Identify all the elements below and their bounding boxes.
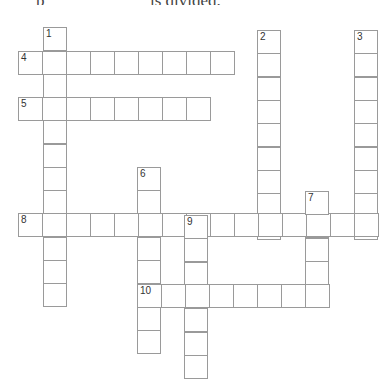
- crossword-cell-8-across-3[interactable]: [66, 213, 91, 237]
- crossword-cell-1-down-7[interactable]: [43, 167, 67, 191]
- crossword-cell-4-across-3[interactable]: [66, 51, 91, 75]
- crossword-cell-5-across-1[interactable]: 5: [18, 97, 43, 121]
- crossword-cell-5-across-7[interactable]: [162, 97, 187, 121]
- crossword-cell-5-across-5[interactable]: [114, 97, 139, 121]
- crossword-cell-10-across-7[interactable]: [281, 284, 306, 308]
- crossword-cell-9-down-7[interactable]: [184, 355, 208, 379]
- crossword-cell-6-down-2[interactable]: [137, 190, 161, 214]
- crossword-cell-1-down-1[interactable]: 1: [43, 27, 67, 51]
- crossword-cell-8-across-1[interactable]: 8: [18, 213, 43, 237]
- crossword-cell-3-down-4[interactable]: [354, 100, 378, 124]
- crossword-cell-5-across-2[interactable]: [42, 97, 67, 121]
- crossword-cell-3-down-5[interactable]: [354, 123, 378, 147]
- crossword-cell-7-down-4[interactable]: [305, 261, 329, 285]
- crossword-cell-6-down-5[interactable]: [137, 260, 161, 284]
- clue-number-7: 7: [308, 193, 314, 203]
- heading-fragment-left: p: [36, 0, 45, 5]
- crossword-cell-2-down-1[interactable]: 2: [257, 30, 281, 54]
- crossword-cell-1-down-3[interactable]: [43, 74, 67, 98]
- crossword-cell-1-down-11[interactable]: [43, 260, 67, 284]
- crossword-cell-10-across-3[interactable]: [185, 284, 210, 308]
- crossword-cell-8-across-12[interactable]: [282, 213, 307, 237]
- crossword-cell-7-down-1[interactable]: 7: [305, 191, 329, 215]
- clue-number-1: 1: [46, 29, 52, 39]
- crossword-cell-4-across-8[interactable]: [186, 51, 211, 75]
- crossword-cell-2-down-2[interactable]: [257, 53, 281, 77]
- crossword-cell-10-across-8[interactable]: [305, 284, 330, 308]
- crossword-cell-9-down-3[interactable]: [184, 262, 208, 286]
- crossword-cell-9-down-2[interactable]: [184, 238, 208, 262]
- crossword-cell-8-across-10[interactable]: [234, 213, 259, 237]
- crossword-cell-8-across-11[interactable]: [258, 213, 283, 237]
- crossword-cell-4-across-7[interactable]: [162, 51, 187, 75]
- crossword-cell-2-down-7[interactable]: [257, 170, 281, 194]
- crossword-cell-1-down-10[interactable]: [43, 237, 67, 261]
- crossword-cell-6-down-1[interactable]: 6: [137, 167, 161, 191]
- crossword-cell-8-across-5[interactable]: [114, 213, 139, 237]
- crossword-cell-4-across-6[interactable]: [138, 51, 163, 75]
- crossword-cell-8-across-9[interactable]: [210, 213, 235, 237]
- clue-number-5: 5: [21, 99, 27, 109]
- crossword-cell-1-down-6[interactable]: [43, 144, 67, 168]
- heading-fragment-right: is divided.: [150, 0, 221, 5]
- crossword-cell-10-across-2[interactable]: [161, 284, 186, 308]
- crossword-cell-1-down-12[interactable]: [43, 283, 67, 307]
- crossword-cell-1-down-8[interactable]: [43, 190, 67, 214]
- crossword-cell-5-across-4[interactable]: [90, 97, 115, 121]
- crossword-cell-8-across-15[interactable]: [354, 213, 379, 237]
- crossword-cell-9-down-5[interactable]: [184, 308, 208, 332]
- crossword-cell-6-down-4[interactable]: [137, 237, 161, 261]
- crossword-cell-3-down-6[interactable]: [354, 147, 378, 171]
- crossword-cell-5-across-6[interactable]: [138, 97, 163, 121]
- clue-number-2: 2: [260, 32, 266, 42]
- clue-number-9: 9: [187, 217, 193, 227]
- crossword-cell-3-down-3[interactable]: [354, 77, 378, 101]
- crossword-cell-10-across-5[interactable]: [233, 284, 258, 308]
- clue-number-6: 6: [140, 169, 146, 179]
- crossword-cell-3-down-2[interactable]: [354, 53, 378, 77]
- clue-number-3: 3: [357, 32, 363, 42]
- crossword-cell-7-down-3[interactable]: [305, 238, 329, 262]
- crossword-cell-4-across-2[interactable]: [42, 51, 67, 75]
- clue-number-8: 8: [21, 215, 27, 225]
- crossword-cell-8-across-4[interactable]: [90, 213, 115, 237]
- crossword-cell-10-across-1[interactable]: 10: [137, 284, 162, 308]
- crossword-cell-5-across-8[interactable]: [186, 97, 211, 121]
- crossword-cell-3-down-1[interactable]: 3: [354, 30, 378, 54]
- crossword-cell-4-across-9[interactable]: [210, 51, 235, 75]
- crossword-cell-9-down-6[interactable]: [184, 332, 208, 356]
- crossword-cell-10-across-4[interactable]: [209, 284, 234, 308]
- crossword-cell-2-down-5[interactable]: [257, 123, 281, 147]
- crossword-cell-3-down-7[interactable]: [354, 170, 378, 194]
- crossword-cell-2-down-4[interactable]: [257, 100, 281, 124]
- crossword-cell-4-across-1[interactable]: 4: [18, 51, 43, 75]
- crossword-cell-1-down-5[interactable]: [43, 120, 67, 144]
- crossword-cell-9-down-1[interactable]: 9: [184, 215, 208, 239]
- crossword-cell-8-across-13[interactable]: [306, 213, 331, 237]
- crossword-cell-8-across-6[interactable]: [138, 213, 163, 237]
- crossword-cell-4-across-5[interactable]: [114, 51, 139, 75]
- cut-off-heading-text: p is divided.: [0, 0, 392, 5]
- crossword-cell-5-across-3[interactable]: [66, 97, 91, 121]
- crossword-cell-2-down-6[interactable]: [257, 147, 281, 171]
- crossword-cell-10-across-6[interactable]: [257, 284, 282, 308]
- crossword-cell-4-across-4[interactable]: [90, 51, 115, 75]
- clue-number-10: 10: [140, 286, 151, 296]
- crossword-cell-8-across-2[interactable]: [42, 213, 67, 237]
- crossword-cell-2-down-3[interactable]: [257, 77, 281, 101]
- crossword-cell-8-across-14[interactable]: [330, 213, 355, 237]
- clue-number-4: 4: [21, 53, 27, 63]
- crossword-cell-6-down-7[interactable]: [137, 307, 161, 331]
- crossword-cell-6-down-8[interactable]: [137, 330, 161, 354]
